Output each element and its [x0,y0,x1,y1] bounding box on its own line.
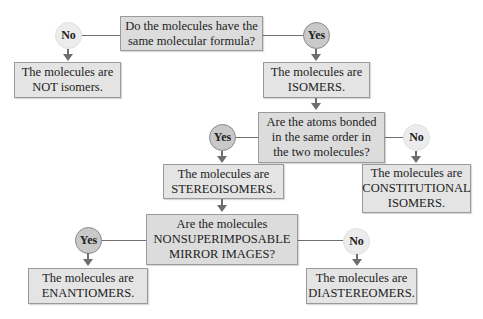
connector-q1-yes [262,35,304,36]
answer-no-badge: No [343,228,370,255]
answer-no-badge: No [403,124,430,151]
connector-q1-no [81,35,121,36]
answer-yes-badge: Yes [75,227,102,254]
arrow-down-icon [352,259,362,266]
result-constitutional-isomers: The molecules are CONSTITUTIONAL ISOMERS… [362,164,471,213]
result-isomers: The molecules are ISOMERS. [263,62,370,98]
question-same-formula: Do the molecules have the same molecular… [120,16,263,51]
connector-q3-no [297,240,344,241]
arrow-down-icon [411,156,421,163]
answer-no-badge: No [55,22,82,49]
arrow-down-icon [217,205,227,212]
question-mirror-images: Are the molecules NONSUPERIMPOSABLE MIRR… [146,214,298,265]
arrow-down-icon [311,103,321,110]
connector-q2-no [384,137,404,138]
result-enantiomers: The molecules are ENANTIOMERS. [28,268,148,304]
result-diastereomers: The molecules are DIASTEREOMERS. [306,268,417,304]
question-same-bond-order: Are the atoms bonded in the same order i… [258,112,385,163]
answer-yes-badge: Yes [209,124,236,151]
connector-q2-yes [235,137,259,138]
answer-yes-badge: Yes [303,22,330,49]
arrow-down-icon [311,54,321,61]
result-not-isomers: The molecules are NOT isomers. [14,62,121,98]
arrow-down-icon [63,54,73,61]
result-stereoisomers: The molecules are STEREOISOMERS. [163,164,284,199]
arrow-down-icon [83,259,93,266]
arrow-down-icon [217,156,227,163]
connector-q3-yes [101,240,147,241]
